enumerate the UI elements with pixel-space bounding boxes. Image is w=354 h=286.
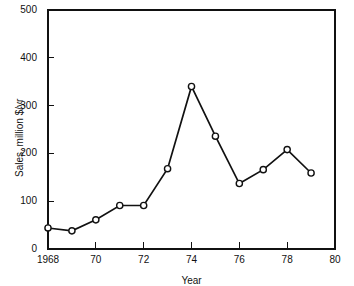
data-point-marker [308,170,314,176]
sales-data-markers [45,83,314,234]
axes [48,10,335,249]
data-point-marker [45,225,51,231]
sales-series-line [48,86,311,230]
y-axis-title: Sales, million $/yr [14,98,25,176]
data-point-marker [212,133,218,139]
plot-area [0,0,354,286]
x-tick-label: 80 [315,255,354,265]
data-point-marker [117,202,123,208]
line-chart-figure: 0100200300400500 1968707274767880 Year S… [0,0,354,286]
x-tick-label: 78 [267,255,307,265]
x-axis-title: Year [132,275,252,286]
data-point-marker [188,83,194,89]
data-point-marker [141,202,147,208]
data-point-marker [93,217,99,223]
data-point-marker [284,146,290,152]
x-tick-label: 72 [124,255,164,265]
x-tick-label: 76 [219,255,259,265]
y-tick-label: 100 [0,196,37,206]
axis-frame [48,10,335,249]
axis-ticks [48,10,335,249]
x-tick-label: 74 [172,255,212,265]
x-tick-label: 1968 [28,255,68,265]
y-tick-label: 400 [0,53,37,63]
y-tick-label: 0 [0,244,37,254]
x-tick-label: 70 [76,255,116,265]
y-tick-label: 500 [0,5,37,15]
data-point-marker [260,167,266,173]
data-point-marker [164,166,170,172]
data-point-marker [69,228,75,234]
data-point-marker [236,180,242,186]
